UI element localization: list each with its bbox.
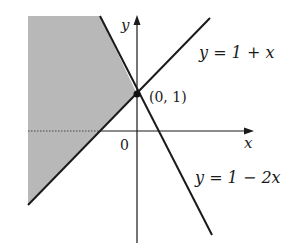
- equation-label-1-minus-2x: y = 1 − 2x: [194, 168, 281, 187]
- line-y-1-minus-2x: [100, 16, 212, 235]
- intersection-label: (0, 1): [149, 89, 187, 105]
- graph-canvas: y x 0 (0, 1) y = 1 + x y = 1 − 2x: [0, 0, 308, 249]
- y-axis-label: y: [120, 16, 130, 34]
- y-axis-arrow-icon: [134, 15, 141, 25]
- intersection-point: [134, 91, 141, 98]
- equation-label-1-plus-x: y = 1 + x: [198, 43, 274, 62]
- origin-label: 0: [120, 137, 129, 153]
- x-axis-label: x: [244, 134, 253, 152]
